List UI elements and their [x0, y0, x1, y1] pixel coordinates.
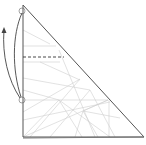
arrowhead-icon	[2, 27, 7, 33]
paper-outline	[23, 5, 144, 137]
origami-diagram	[0, 0, 146, 145]
unfold-arrow-icon	[4, 30, 20, 98]
crease-lines	[23, 30, 120, 137]
fold-up-arrow-icon	[14, 13, 22, 97]
